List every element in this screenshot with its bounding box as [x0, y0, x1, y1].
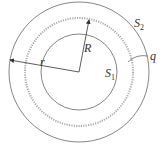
- label-S1: S1: [105, 67, 115, 82]
- label-r: r: [40, 56, 45, 68]
- label-R: R: [84, 42, 91, 54]
- gauss-law-diagram: S2 S1 q R r: [0, 0, 166, 146]
- label-q: q: [150, 50, 156, 62]
- label-S2: S2: [134, 17, 144, 32]
